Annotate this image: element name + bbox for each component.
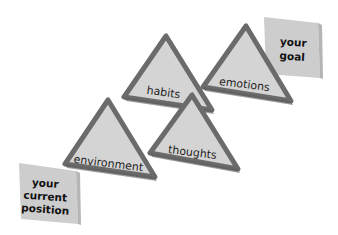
triangle-habits: habits: [124, 36, 214, 114]
triangle-thoughts: thoughts: [150, 95, 240, 173]
triangle-environment: environment: [65, 100, 157, 181]
goal-box-line-1: your: [280, 35, 308, 49]
current-position-box: your current position: [19, 163, 81, 225]
goal-box-line-2: goal: [279, 49, 305, 63]
progress-diagram: your goal habits emotions environment th…: [0, 0, 338, 235]
current-position-line-1: your: [32, 176, 60, 190]
